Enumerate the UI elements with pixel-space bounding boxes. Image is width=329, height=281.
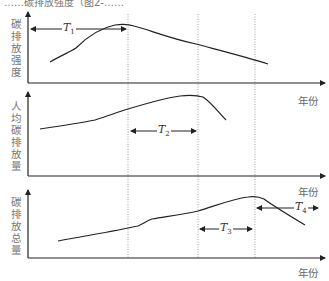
panel-3-ylabel: 碳排放总量 — [7, 196, 21, 258]
panel-1-curve — [50, 24, 268, 64]
panel-1-xlabel: 年份 — [298, 93, 318, 108]
peak-diagram — [0, 0, 329, 281]
panel-2-axes — [28, 92, 325, 176]
t4-label: T4 — [294, 200, 308, 215]
panel-2-ylabel: 人均碳排放量 — [7, 100, 21, 174]
t1-label: T1 — [62, 21, 76, 36]
panel-3-curve — [58, 196, 305, 241]
panel-2-xlabel: 年份 — [298, 184, 318, 199]
panel-1-ylabel: 碳排放强度 — [7, 18, 21, 80]
panel-3-axes — [28, 190, 325, 258]
t3-label: T3 — [219, 221, 233, 236]
panel-3-xlabel: 年份 — [298, 265, 318, 280]
t2-label: T2 — [157, 123, 171, 138]
